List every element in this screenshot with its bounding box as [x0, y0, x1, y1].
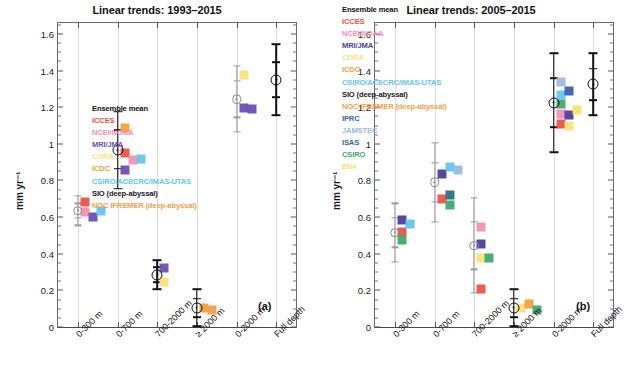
data-point-csiro-acecrc-imas-utas [405, 219, 414, 228]
ensemble-mean-marker [232, 94, 242, 104]
legend-entry-ncei-noaa: NCEI/NOAA [342, 28, 447, 40]
y-tick-mark [58, 327, 63, 328]
y-tick-minor [58, 198, 61, 199]
y-tick-minor [58, 262, 61, 263]
ensemble-mean-marker [469, 241, 479, 251]
y-tick-minor [610, 134, 613, 135]
legend-entry-en4: EN4 [342, 161, 447, 173]
y-tick-label: 1.6 [41, 28, 58, 39]
y-tick-mark [58, 290, 63, 291]
legend-entry-jamstec: JAMSTEC [342, 125, 447, 137]
legend-entry-ensemble-mean: Ensemble mean [92, 103, 197, 115]
y-tick-minor [610, 116, 613, 117]
y-tick-mark [608, 327, 613, 328]
y-tick-label: 1 [49, 138, 58, 149]
panel-a-ylabel: mm yr⁻¹ [14, 172, 25, 210]
y-tick-mark [291, 180, 296, 181]
y-tick-mark [291, 217, 296, 218]
y-tick-minor [610, 24, 613, 25]
legend-entry-noc-ifremer-deep-abyssal: NOC IFREMER (deep-abyssal) [92, 200, 197, 212]
y-tick-minor [293, 52, 296, 53]
y-tick-label: 0.6 [358, 212, 375, 223]
data-point-cora [160, 278, 169, 287]
y-tick-minor [375, 317, 378, 318]
x-tick-mark [276, 23, 277, 28]
y-tick-minor [293, 79, 296, 80]
x-tick-mark [474, 23, 475, 28]
y-tick-minor [610, 171, 613, 172]
y-tick-mark [291, 327, 296, 328]
y-tick-minor [58, 116, 61, 117]
error-bar-inner-cap [589, 99, 597, 101]
y-tick-minor [293, 281, 296, 282]
error-bar-inner-cap [471, 269, 478, 270]
ensemble-mean-dot [473, 245, 475, 247]
y-tick-label: 0.4 [358, 248, 375, 259]
legend-entry-mri-jma: MRI/JMA [342, 40, 447, 52]
y-tick-label: 0.2 [358, 285, 375, 296]
ensemble-mean-marker [152, 269, 163, 280]
y-tick-minor [610, 125, 613, 126]
y-tick-mark [375, 290, 380, 291]
y-tick-minor [375, 198, 378, 199]
y-tick-label: 1.2 [41, 102, 58, 113]
y-tick-label: 0.6 [41, 212, 58, 223]
y-tick-minor [58, 162, 61, 163]
y-tick-minor [58, 134, 61, 135]
x-tick-mark [514, 23, 515, 28]
y-tick-minor [293, 88, 296, 89]
y-tick-minor [58, 226, 61, 227]
y-tick-mark [58, 107, 63, 108]
error-bar-cap [431, 221, 438, 222]
y-tick-minor [293, 272, 296, 273]
data-point-en4 [572, 105, 581, 114]
y-tick-minor [293, 226, 296, 227]
panel-a-legend: Ensemble meanICCESNCEI/NOAAMRI/JMACORAIC… [92, 103, 197, 212]
error-bar-cap [233, 131, 240, 132]
y-tick-minor [610, 61, 613, 62]
legend-entry-cora: CORA [92, 151, 197, 163]
y-tick-mark [291, 290, 296, 291]
y-tick-mark [58, 143, 63, 144]
panel-b-legend: Ensemble meanICCESNCEI/NOAAMRI/JMACORAIC… [342, 4, 447, 173]
y-tick-minor [375, 299, 378, 300]
legend-entry-mri-jma: MRI/JMA [92, 139, 197, 151]
ensemble-mean-dot [513, 307, 515, 309]
y-tick-minor [58, 299, 61, 300]
error-bar-cap [391, 261, 398, 262]
y-tick-minor [293, 244, 296, 245]
ensemble-mean-marker [73, 206, 83, 216]
y-tick-minor [293, 61, 296, 62]
y-tick-mark [375, 253, 380, 254]
y-tick-minor [58, 235, 61, 236]
y-tick-minor [58, 317, 61, 318]
error-bar-cap [74, 225, 81, 226]
y-tick-minor [610, 235, 613, 236]
ensemble-mean-dot [77, 210, 79, 212]
y-tick-mark [608, 143, 613, 144]
error-bar-cap [153, 289, 162, 291]
legend-entry-sio-deep-abyssal: SIO (deep-abyssal) [92, 188, 197, 200]
y-tick-minor [293, 262, 296, 263]
y-tick-minor [293, 171, 296, 172]
error-bar-cap [549, 151, 558, 153]
y-tick-minor [58, 88, 61, 89]
y-tick-mark [608, 33, 613, 34]
y-tick-minor [610, 162, 613, 163]
panel-a-title: Linear trends: 1993–2015 [0, 4, 314, 16]
panel-b-ylabel: mm yr⁻¹ [331, 172, 342, 210]
y-tick-minor [293, 125, 296, 126]
ensemble-mean-dot [434, 181, 436, 183]
y-tick-minor [58, 308, 61, 309]
y-tick-minor [293, 24, 296, 25]
error-bar-inner-cap [233, 117, 240, 118]
data-point-csiro [485, 254, 494, 263]
error-bar-cap [471, 197, 478, 198]
ensemble-mean-marker [430, 178, 440, 188]
ensemble-mean-marker [588, 79, 599, 90]
y-tick-minor [58, 24, 61, 25]
error-bar-inner-cap [510, 316, 518, 318]
y-tick-label: 0 [366, 322, 375, 333]
y-tick-minor [610, 153, 613, 154]
legend-entry-icces: ICCES [342, 16, 447, 28]
